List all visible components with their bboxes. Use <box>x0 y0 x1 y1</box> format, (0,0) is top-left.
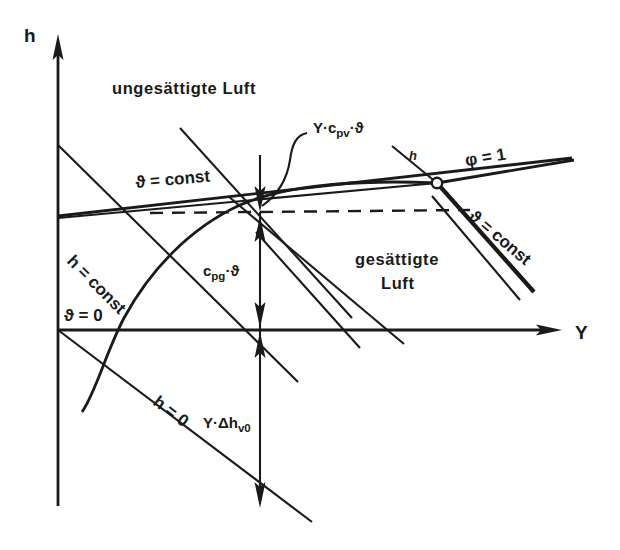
label-theta-zero: ϑ = 0 <box>64 306 103 325</box>
label-enthalpy-point: h <box>409 148 417 163</box>
mollier-diagram: h Y ungesättigte Luft gesättigte Luft ϑ … <box>0 0 620 550</box>
region-label-saturated-line1: gesättigte <box>355 250 439 268</box>
vaporization-subscript: v0 <box>238 422 251 434</box>
svg-text:cpg·ϑ: cpg·ϑ <box>203 262 239 282</box>
vapor-enthalpy-subscript: pv <box>336 127 350 139</box>
label-h-zero: h = 0 <box>150 392 193 431</box>
vapor-enthalpy-suffix: ·ϑ <box>350 119 364 136</box>
region-label-saturated-line2: Luft <box>381 274 415 292</box>
isotherm-fan-line-b <box>228 196 404 344</box>
diagram-canvas: h Y ungesättigte Luft gesättigte Luft ϑ … <box>0 0 620 550</box>
annotation-vapor-enthalpy: Y·cpv·ϑ <box>313 119 364 139</box>
measurement-axis-group <box>255 155 266 508</box>
y-axis <box>58 325 562 336</box>
datum-dashed-line <box>150 210 470 213</box>
h-axis-label: h <box>24 25 36 46</box>
svg-text:Y·cpv·ϑ: Y·cpv·ϑ <box>313 119 364 139</box>
annotation-gas-enthalpy: cpg·ϑ <box>203 262 239 282</box>
svg-text:Y·Δhv0: Y·Δhv0 <box>203 414 251 434</box>
label-theta-const-upper: ϑ = const <box>135 167 211 192</box>
gas-enthalpy-prefix: c <box>203 262 211 279</box>
vapor-enthalpy-prefix: Y·c <box>313 119 336 136</box>
h-axis <box>53 34 64 506</box>
gas-enthalpy-subscript: pg <box>211 270 225 282</box>
annotation-vaporization: Y·Δhv0 <box>203 414 251 434</box>
vaporization-prefix: Y·Δh <box>203 414 238 431</box>
region-label-unsaturated: ungesättigte Luft <box>112 79 256 97</box>
label-theta-const-lower: ϑ = const <box>465 207 535 270</box>
gas-enthalpy-suffix: ·ϑ <box>225 262 239 279</box>
y-axis-label: Y <box>575 322 588 343</box>
saturation-point-marker <box>432 178 442 188</box>
